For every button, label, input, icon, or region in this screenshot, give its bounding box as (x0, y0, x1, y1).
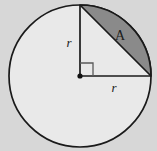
center-point-dot (77, 73, 82, 78)
segment-area-label: A (115, 28, 126, 43)
figure-canvas: r r A (0, 0, 157, 151)
geometry-figure: r r A (0, 0, 157, 151)
